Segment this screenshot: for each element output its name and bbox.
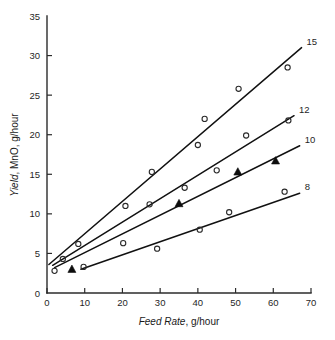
data-point-open-circle (195, 142, 200, 147)
y-tick-label: 25 (29, 90, 40, 101)
data-point-filled-triangle (272, 157, 280, 164)
trend-lines-group (49, 48, 302, 270)
y-tick-label: 35 (29, 11, 40, 22)
x-tick-label: 70 (306, 297, 317, 308)
x-tick-label: 40 (193, 297, 204, 308)
data-point-open-circle (244, 133, 249, 138)
y-axis-title: Yield, MnO, g/hour (9, 113, 20, 197)
series-label-10: 10 (305, 134, 316, 145)
x-tick-label: 30 (155, 297, 166, 308)
data-point-open-circle (202, 116, 207, 121)
chart-container: 010203040506070 05101520253035 1512108 F… (0, 0, 335, 340)
trend-line-8 (81, 193, 300, 269)
data-point-open-circle (121, 241, 126, 246)
data-point-open-circle (227, 210, 232, 215)
data-point-open-circle (155, 246, 160, 251)
trend-line-15 (49, 48, 302, 265)
y-tick-label: 20 (29, 129, 40, 140)
y-tick-label: 15 (29, 169, 40, 180)
data-point-filled-triangle (234, 168, 242, 175)
data-markers-group (52, 65, 291, 274)
data-point-open-circle (214, 168, 219, 173)
series-end-labels-group: 1512108 (299, 36, 317, 193)
data-point-filled-triangle (175, 199, 183, 206)
data-point-open-circle (149, 169, 154, 174)
x-tick-label: 50 (230, 297, 241, 308)
x-axis-ticks: 010203040506070 (44, 288, 316, 308)
data-point-open-circle (236, 86, 241, 91)
x-tick-label: 60 (268, 297, 279, 308)
y-tick-label: 0 (35, 288, 40, 299)
x-tick-label: 20 (117, 297, 128, 308)
data-point-open-circle (182, 185, 187, 190)
data-point-open-circle (76, 241, 81, 246)
series-label-12: 12 (299, 104, 310, 115)
y-tick-label: 10 (29, 208, 40, 219)
series-label-15: 15 (307, 36, 318, 47)
data-point-open-circle (52, 268, 57, 273)
series-label-8: 8 (305, 181, 310, 192)
y-axis-ticks: 05101520253035 (29, 11, 52, 299)
data-point-filled-triangle (68, 265, 76, 272)
data-point-open-circle (282, 189, 287, 194)
trend-line-12 (53, 116, 294, 266)
x-tick-label: 0 (44, 297, 49, 308)
y-tick-label: 30 (29, 50, 40, 61)
data-point-open-circle (285, 65, 290, 70)
x-axis-title: Feed Rate, g/hour (139, 316, 220, 327)
x-tick-label: 10 (79, 297, 90, 308)
yield-vs-feed-rate-scatter-plot: 010203040506070 05101520253035 1512108 F… (0, 0, 335, 340)
data-point-open-circle (123, 203, 128, 208)
y-tick-label: 5 (35, 248, 40, 259)
